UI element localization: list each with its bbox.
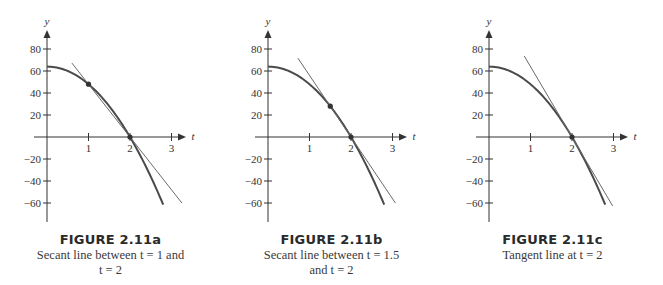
data-point xyxy=(328,104,333,109)
secant-line-series xyxy=(524,56,612,206)
x-tick-label: 2 xyxy=(348,142,354,154)
x-axis-label: t xyxy=(412,130,416,142)
y-tick-label: 60 xyxy=(472,65,484,77)
x-tick-label: 2 xyxy=(569,142,575,154)
y-axis-arrow-icon xyxy=(486,30,493,38)
caption-line: Secant line between t = 1.5 xyxy=(251,248,412,263)
y-tick-label: 40 xyxy=(472,87,484,99)
chart-b: yt80604020−20−40−60123 xyxy=(221,0,442,228)
figure-panel-c: yt80604020−20−40−60123 FIGURE 2.11c Tang… xyxy=(442,0,663,285)
y-tick-label: 60 xyxy=(30,65,42,77)
x-tick-label: 2 xyxy=(127,142,133,154)
y-tick-label: −20 xyxy=(466,153,484,165)
x-tick-label: 1 xyxy=(86,142,92,154)
figure-panel-b: yt80604020−20−40−60123 FIGURE 2.11b Seca… xyxy=(221,0,442,285)
caption-line: Secant line between t = 1 and xyxy=(30,248,191,263)
figure-subtitle: Secant line between t = 1.5 and t = 2 xyxy=(221,248,442,278)
y-tick-label: 80 xyxy=(472,43,484,55)
data-point xyxy=(569,134,574,139)
y-tick-label: −60 xyxy=(24,197,42,209)
y-axis-label: y xyxy=(265,15,271,27)
curve-series xyxy=(47,67,163,205)
x-axis-arrow-icon xyxy=(620,134,628,141)
x-tick-label: 3 xyxy=(169,142,175,154)
data-point xyxy=(348,134,353,139)
y-tick-label: −60 xyxy=(245,197,263,209)
caption-a: FIGURE 2.11a Secant line between t = 1 a… xyxy=(0,232,221,278)
chart-c: yt80604020−20−40−60123 xyxy=(442,0,663,228)
figure-panel-a: yt80604020−20−40−60123 FIGURE 2.11a Seca… xyxy=(0,0,221,285)
x-tick-label: 1 xyxy=(528,142,534,154)
y-tick-label: −40 xyxy=(24,175,42,187)
figure-title: FIGURE 2.11b xyxy=(221,232,442,247)
x-tick-label: 3 xyxy=(611,142,617,154)
y-axis-label: y xyxy=(44,15,50,27)
curve-series xyxy=(489,67,605,205)
x-tick-label: 3 xyxy=(390,142,396,154)
y-tick-label: 20 xyxy=(30,109,42,121)
figure-subtitle: Tangent line at t = 2 xyxy=(442,248,663,263)
chart-a: yt80604020−20−40−60123 xyxy=(0,0,221,228)
caption-c: FIGURE 2.11c Tangent line at t = 2 xyxy=(442,232,663,263)
x-axis-arrow-icon xyxy=(399,134,407,141)
caption-line: and t = 2 xyxy=(251,263,412,278)
y-axis-arrow-icon xyxy=(44,30,51,38)
x-axis-arrow-icon xyxy=(178,134,186,141)
caption-b: FIGURE 2.11b Secant line between t = 1.5… xyxy=(221,232,442,278)
x-tick-label: 1 xyxy=(307,142,313,154)
y-tick-label: 40 xyxy=(251,87,263,99)
y-tick-label: 20 xyxy=(251,109,263,121)
curve-series xyxy=(268,67,384,205)
secant-line-series xyxy=(298,58,396,203)
y-tick-label: −20 xyxy=(245,153,263,165)
y-tick-label: −40 xyxy=(245,175,263,187)
y-axis-arrow-icon xyxy=(265,30,272,38)
y-axis-label: y xyxy=(486,15,492,27)
figure-subtitle: Secant line between t = 1 and t = 2 xyxy=(0,248,221,278)
y-tick-label: 80 xyxy=(30,43,42,55)
y-tick-label: 80 xyxy=(251,43,263,55)
figure-title: FIGURE 2.11c xyxy=(442,232,663,247)
figure-title: FIGURE 2.11a xyxy=(0,232,221,247)
y-tick-label: −20 xyxy=(24,153,42,165)
y-tick-label: 60 xyxy=(251,65,263,77)
y-tick-label: −60 xyxy=(466,197,484,209)
caption-line: t = 2 xyxy=(30,263,191,278)
x-axis-label: t xyxy=(191,130,195,142)
x-axis-label: t xyxy=(633,130,637,142)
caption-line: Tangent line at t = 2 xyxy=(472,248,633,263)
data-point xyxy=(127,134,132,139)
y-tick-label: 40 xyxy=(30,87,42,99)
data-point xyxy=(86,82,91,87)
y-tick-label: 20 xyxy=(472,109,484,121)
y-tick-label: −40 xyxy=(466,175,484,187)
